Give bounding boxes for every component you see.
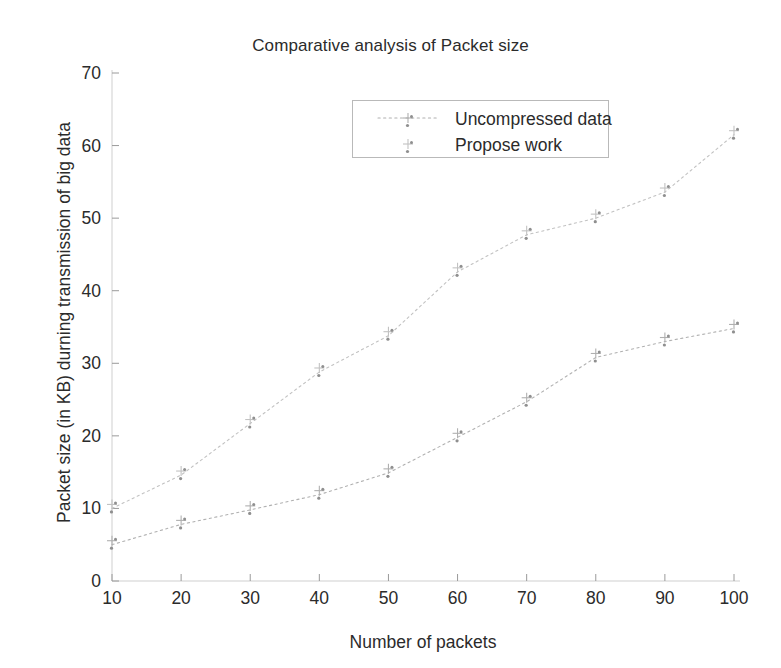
data-point-marker: [660, 183, 670, 197]
plot-area: 010203040506070 102030405060708090100 Un…: [0, 0, 781, 668]
data-point-marker: [383, 464, 393, 478]
x-tick-label: 20: [171, 588, 191, 608]
legend-label: Uncompressed data: [455, 109, 612, 129]
data-point-marker: [176, 515, 186, 529]
y-tick-label: 60: [82, 136, 102, 156]
x-tick-label: 30: [240, 588, 260, 608]
data-point-marker: [729, 319, 739, 333]
x-tick-label: 80: [586, 588, 606, 608]
data-point-marker: [403, 139, 413, 153]
y-tick-group: 010203040506070: [82, 63, 119, 591]
data-point-marker: [403, 113, 413, 127]
legend-label: Propose work: [455, 135, 562, 155]
x-tick-label: 50: [379, 588, 399, 608]
x-tick-label: 90: [655, 588, 675, 608]
data-series-group: [107, 126, 739, 550]
y-tick-label: 50: [82, 208, 102, 228]
x-tick-label: 10: [102, 588, 122, 608]
y-tick-label: 30: [82, 353, 102, 373]
axes: [112, 70, 740, 581]
data-point-marker: [591, 209, 601, 223]
y-tick-label: 40: [82, 281, 102, 301]
data-point-marker: [383, 327, 393, 341]
data-point-marker: [522, 226, 532, 240]
data-point-marker: [107, 536, 117, 550]
series-line: [112, 135, 734, 509]
data-point-marker: [522, 393, 532, 407]
y-tick-label: 70: [82, 63, 102, 83]
y-tick-label: 20: [82, 426, 102, 446]
data-point-marker: [314, 486, 324, 500]
chart-legend: Uncompressed dataPropose work: [353, 101, 612, 158]
data-point-marker: [107, 499, 117, 513]
data-point-marker: [591, 348, 601, 362]
y-tick-label: 10: [82, 498, 102, 518]
data-point-marker: [245, 501, 255, 515]
x-tick-label: 60: [448, 588, 468, 608]
x-tick-label: 40: [310, 588, 330, 608]
x-tick-label: 100: [719, 588, 748, 608]
data-point-marker: [660, 333, 670, 347]
x-tick-group: 102030405060708090100: [102, 574, 749, 608]
x-tick-label: 70: [517, 588, 537, 608]
chart-figure: Comparative analysis of Packet size Pack…: [0, 0, 781, 668]
data-point-marker: [453, 428, 463, 442]
series-line: [112, 328, 734, 544]
y-tick-label: 0: [91, 571, 101, 591]
